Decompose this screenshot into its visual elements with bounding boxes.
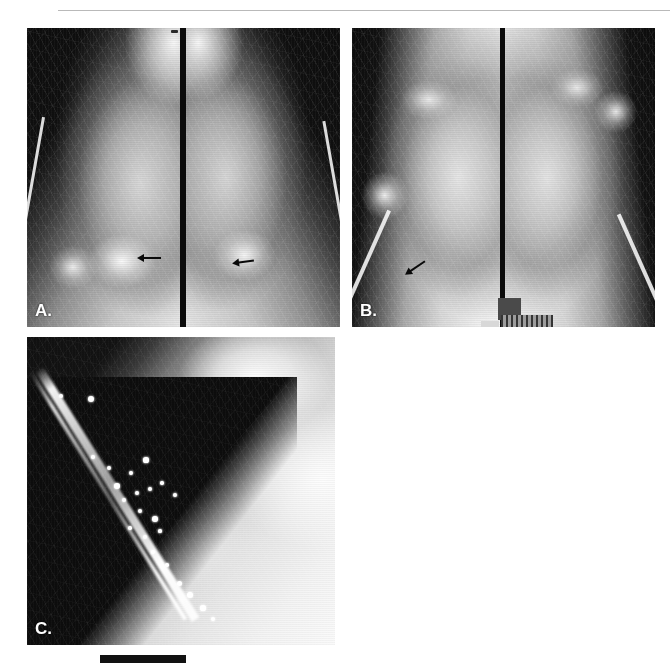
page-header xyxy=(0,0,670,14)
mammogram-view-a-left xyxy=(27,28,180,327)
mammogram-view-b-right xyxy=(505,28,655,327)
film-id-block-b-3 xyxy=(481,321,499,327)
microcalcification xyxy=(177,581,182,586)
figure-panel-b: B. xyxy=(352,28,655,327)
microcalcification xyxy=(128,526,132,530)
arrow-shaft xyxy=(142,257,161,259)
panel-label-a: A. xyxy=(35,302,52,319)
microcalcification xyxy=(114,483,120,489)
panel-label-c: C. xyxy=(35,620,52,637)
film-id-block-b-2 xyxy=(501,315,553,327)
microcalcification xyxy=(187,592,193,598)
header-divider-rule xyxy=(58,10,670,11)
microcalcification xyxy=(160,481,163,484)
microcalcification xyxy=(138,509,142,513)
mammogram-view-b-left xyxy=(352,28,500,327)
microcalcification xyxy=(158,529,161,532)
film-grain-a-right xyxy=(186,28,340,327)
film-grain-a-left xyxy=(27,28,180,327)
microcalcification xyxy=(148,487,152,491)
panel-label-b: B. xyxy=(360,302,377,319)
mammogram-view-a-right xyxy=(186,28,340,327)
figure-panel-a: A. xyxy=(27,28,340,327)
microcalcification xyxy=(143,457,148,462)
film-marker-a-top xyxy=(171,30,178,33)
microcalcification xyxy=(165,563,169,567)
running-head-text xyxy=(150,0,350,1)
microcalcification xyxy=(129,471,133,475)
film-grain-b-right xyxy=(505,28,655,327)
figure-panel-c: C. xyxy=(27,337,335,645)
film-grain-b-left xyxy=(352,28,500,327)
microcalcification xyxy=(91,455,95,459)
scale-bar xyxy=(100,655,186,663)
microcalcification xyxy=(152,516,157,521)
microcalcification xyxy=(200,605,205,610)
